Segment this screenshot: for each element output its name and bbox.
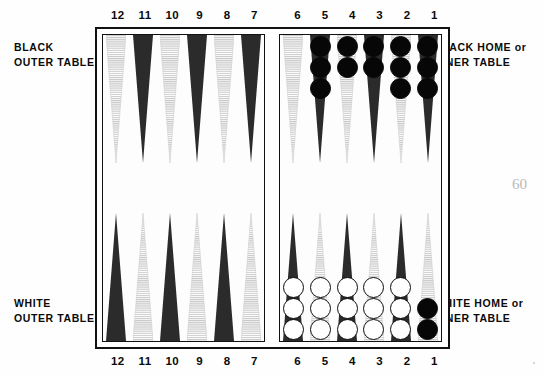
checker-white[interactable] [337, 319, 358, 340]
point-2[interactable] [387, 188, 414, 341]
checker-white[interactable] [363, 319, 384, 340]
checker-white[interactable] [283, 277, 304, 298]
point-number-4: 4 [339, 9, 366, 25]
checker-white[interactable] [363, 277, 384, 298]
checker-stack[interactable] [336, 277, 358, 340]
point-2[interactable] [387, 35, 414, 188]
checker-stack[interactable] [282, 277, 304, 340]
point-number-2: 2 [393, 355, 420, 371]
point-10[interactable] [157, 35, 184, 188]
quadrant-white-home-table [280, 188, 441, 341]
point-12[interactable] [103, 188, 130, 341]
point-7[interactable] [237, 35, 264, 188]
checker-black[interactable] [417, 298, 438, 319]
checker-black[interactable] [390, 57, 411, 78]
checker-black[interactable] [390, 36, 411, 57]
checker-white[interactable] [390, 319, 411, 340]
point-triangle-light [133, 213, 153, 341]
checker-black[interactable] [417, 57, 438, 78]
point-number-4: 4 [339, 355, 366, 371]
checker-white[interactable] [390, 298, 411, 319]
checker-stack[interactable] [363, 277, 385, 340]
point-1[interactable] [414, 188, 441, 341]
point-3[interactable] [360, 188, 387, 341]
point-11[interactable] [130, 35, 157, 188]
point-numbers-bottom-left: 121110987 [96, 355, 268, 371]
checker-stack[interactable] [417, 298, 439, 340]
point-triangle-dark [106, 213, 126, 341]
point-number-7: 7 [241, 355, 268, 371]
checker-black[interactable] [417, 78, 438, 99]
point-1[interactable] [414, 35, 441, 188]
caption-black-outer-line1: BLACK [14, 40, 95, 55]
checker-black[interactable] [417, 319, 438, 340]
point-triangle-light [214, 35, 234, 163]
checker-white[interactable] [337, 277, 358, 298]
point-number-10: 10 [159, 9, 186, 25]
caption-black-outer-table: BLACK OUTER TABLE [14, 40, 95, 70]
checker-black[interactable] [310, 36, 331, 57]
quadrant-black-outer-table [103, 35, 264, 188]
caption-white-outer-line2: OUTER TABLE [14, 311, 95, 326]
checker-white[interactable] [310, 298, 331, 319]
checker-black[interactable] [363, 57, 384, 78]
point-8[interactable] [210, 188, 237, 341]
checker-black[interactable] [310, 78, 331, 99]
point-number-3: 3 [366, 355, 393, 371]
checker-white[interactable] [310, 277, 331, 298]
checker-stack[interactable] [309, 36, 331, 99]
caption-black-outer-line2: OUTER TABLE [14, 55, 95, 70]
point-5[interactable] [307, 188, 334, 341]
point-number-6: 6 [284, 9, 311, 25]
point-4[interactable] [334, 35, 361, 188]
point-number-11: 11 [131, 355, 158, 371]
point-8[interactable] [210, 35, 237, 188]
point-triangle-dark [160, 213, 180, 341]
point-triangle-dark [214, 213, 234, 341]
caption-white-home-or: or [512, 297, 524, 309]
checker-black[interactable] [417, 36, 438, 57]
point-6[interactable] [280, 188, 307, 341]
point-number-8: 8 [213, 355, 240, 371]
point-number-9: 9 [186, 9, 213, 25]
point-number-6: 6 [284, 355, 311, 371]
point-numbers-top-right: 654321 [268, 9, 448, 25]
checker-stack[interactable] [336, 36, 358, 78]
checker-black[interactable] [390, 78, 411, 99]
checker-white[interactable] [337, 298, 358, 319]
checker-black[interactable] [337, 36, 358, 57]
checker-white[interactable] [283, 298, 304, 319]
point-9[interactable] [183, 35, 210, 188]
point-number-9: 9 [186, 355, 213, 371]
checker-black[interactable] [363, 36, 384, 57]
corner-mark [533, 362, 535, 364]
point-7[interactable] [237, 188, 264, 341]
checker-white[interactable] [310, 319, 331, 340]
checker-stack[interactable] [363, 36, 385, 78]
point-9[interactable] [183, 188, 210, 341]
point-12[interactable] [103, 35, 130, 188]
checker-stack[interactable] [390, 277, 412, 340]
checker-stack[interactable] [309, 277, 331, 340]
point-number-11: 11 [131, 9, 158, 25]
point-4[interactable] [334, 188, 361, 341]
point-number-7: 7 [241, 9, 268, 25]
point-11[interactable] [130, 188, 157, 341]
checker-black[interactable] [310, 57, 331, 78]
point-6[interactable] [280, 35, 307, 188]
point-number-1: 1 [421, 9, 448, 25]
point-3[interactable] [360, 35, 387, 188]
point-triangle-light [160, 35, 180, 163]
checker-stack[interactable] [390, 36, 412, 99]
checker-white[interactable] [283, 319, 304, 340]
checker-white[interactable] [363, 298, 384, 319]
checker-black[interactable] [337, 57, 358, 78]
point-numbers-top: 121110987 654321 [96, 9, 448, 25]
checker-white[interactable] [390, 277, 411, 298]
point-triangle-light [106, 35, 126, 163]
point-5[interactable] [307, 35, 334, 188]
checker-stack[interactable] [417, 36, 439, 99]
point-numbers-top-left: 121110987 [96, 9, 268, 25]
point-10[interactable] [157, 188, 184, 341]
backgammon-board [95, 27, 450, 349]
